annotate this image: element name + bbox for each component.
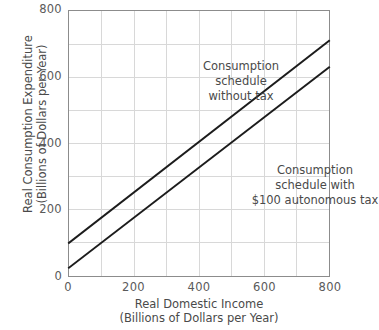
x-tick-label: 600 <box>240 280 290 294</box>
y-axis-title: Real Consumption Expenditure (Billions o… <box>21 0 49 259</box>
x-tick-label: 200 <box>109 280 159 294</box>
y-axis-title-line1: Real Consumption Expenditure <box>21 0 35 259</box>
annotation-with-tax-line1: Consumption <box>251 163 379 178</box>
x-tick-label: 800 <box>305 280 355 294</box>
annotation-with-tax-line3: $100 autonomous tax <box>251 193 379 208</box>
annotation-no-tax-line3: without tax <box>186 89 296 104</box>
annotation-no-tax-line1: Consumption <box>186 59 296 74</box>
x-axis-title-line1: Real Domestic Income <box>68 297 330 311</box>
annotation-no-tax-line2: schedule <box>186 74 296 89</box>
y-axis-title-line2: (Billions of Dollars per Year) <box>35 0 49 259</box>
annotation-consumption-with-tax: Consumption schedule with $100 autonomou… <box>251 163 379 208</box>
x-axis-title-line2: (Billions of Dollars per Year) <box>68 311 330 325</box>
annotation-with-tax-line2: schedule with <box>251 178 379 193</box>
plot-area: Consumption schedule without tax Consump… <box>68 10 330 277</box>
x-axis-title: Real Domestic Income (Billions of Dollar… <box>68 297 330 325</box>
annotation-consumption-without-tax: Consumption schedule without tax <box>186 59 296 104</box>
x-tick-label: 400 <box>174 280 224 294</box>
x-tick-label: 0 <box>43 280 93 294</box>
data-series-layer <box>69 11 329 276</box>
cropped-title-remnant <box>160 0 190 4</box>
x-axis-tick-labels: 0200400600800 <box>68 280 330 296</box>
